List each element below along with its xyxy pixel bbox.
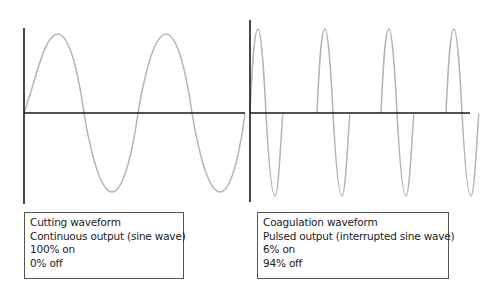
coagulation-waveform-label-box: Coagulation waveform Pulsed output (inte… bbox=[257, 212, 449, 279]
cutting-off-percent: 0% off bbox=[30, 257, 178, 271]
coagulation-title: Coagulation waveform bbox=[263, 216, 443, 230]
coagulation-description: Pulsed output (interrupted sine wave) bbox=[263, 230, 443, 244]
coagulation-off-percent: 94% off bbox=[263, 257, 443, 271]
coagulation-on-percent: 6% on bbox=[263, 243, 443, 257]
cutting-description: Continuous output (sine wave) bbox=[30, 230, 178, 244]
coagulation-waveform-plot bbox=[250, 20, 479, 202]
cutting-on-percent: 100% on bbox=[30, 243, 178, 257]
cutting-waveform-label-box: Cutting waveform Continuous output (sine… bbox=[24, 212, 184, 279]
cutting-waveform-plot bbox=[24, 28, 245, 204]
waveform-diagrams bbox=[0, 0, 496, 210]
cutting-title: Cutting waveform bbox=[30, 216, 178, 230]
